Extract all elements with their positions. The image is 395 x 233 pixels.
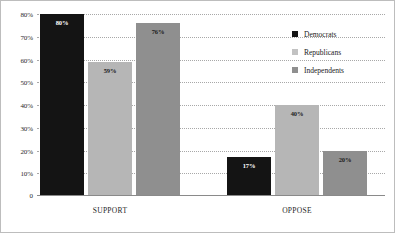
bar-republicans-oppose: 40% bbox=[275, 105, 319, 196]
y-axis-tick-label: 30% bbox=[20, 125, 33, 133]
legend-swatch-icon bbox=[292, 49, 298, 55]
bar-value-label: 20% bbox=[323, 156, 367, 163]
legend-item-democrats[interactable]: Democrats bbox=[292, 25, 392, 43]
y-axis-tick-label: 10% bbox=[20, 170, 33, 178]
bar-value-label: 76% bbox=[136, 28, 180, 35]
bar-chart: 80%70%60%50%40%30%20%10% 80%59%76%17%40%… bbox=[0, 0, 395, 233]
y-axis-tick-label: 60% bbox=[20, 57, 33, 65]
bar-independents-oppose: 20% bbox=[323, 151, 367, 197]
legend-item-independents[interactable]: Independents bbox=[292, 61, 392, 79]
bar-democrats-support: 80% bbox=[40, 14, 84, 196]
y-axis-tick-label: 20% bbox=[20, 148, 33, 156]
legend-label: Independents bbox=[304, 66, 344, 75]
gridline: 80% bbox=[37, 14, 385, 15]
bar-independents-support: 76% bbox=[136, 23, 180, 196]
legend-swatch-icon bbox=[292, 31, 298, 37]
legend-label: Republicans bbox=[304, 48, 341, 57]
category-label-oppose: OPPOSE bbox=[282, 206, 312, 215]
y-axis-tick-label: 40% bbox=[20, 102, 33, 110]
y-axis-tick-label: 80% bbox=[20, 11, 33, 19]
axis-baseline bbox=[37, 195, 385, 196]
legend-item-republicans[interactable]: Republicans bbox=[292, 43, 392, 61]
bar-democrats-oppose: 17% bbox=[227, 157, 271, 196]
legend-swatch-icon bbox=[292, 67, 298, 73]
bar-republicans-support: 59% bbox=[88, 62, 132, 196]
bar-value-label: 59% bbox=[88, 67, 132, 74]
bar-value-label: 40% bbox=[275, 110, 319, 117]
legend-label: Democrats bbox=[304, 30, 337, 39]
y-axis-tick-label: 70% bbox=[20, 34, 33, 42]
y-axis-tick-label: 50% bbox=[20, 79, 33, 87]
axis-zero-label: 0 bbox=[30, 192, 34, 200]
legend: DemocratsRepublicansIndependents bbox=[292, 25, 392, 79]
category-label-support: SUPPORT bbox=[93, 206, 128, 215]
bar-value-label: 80% bbox=[40, 19, 84, 26]
bar-value-label: 17% bbox=[227, 162, 271, 169]
